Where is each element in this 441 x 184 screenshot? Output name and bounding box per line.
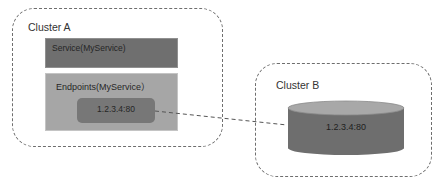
connector-line [0, 0, 441, 184]
